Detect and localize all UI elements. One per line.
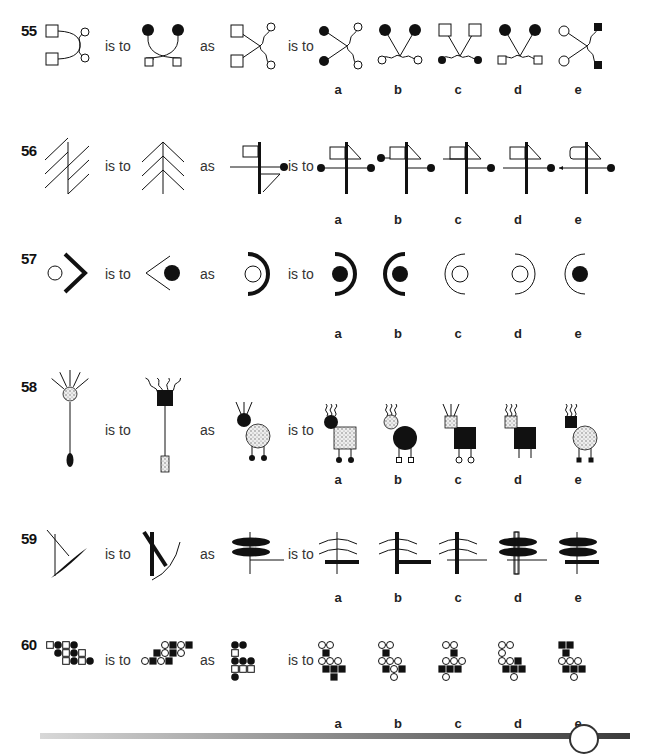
is-to-text: is to <box>105 38 131 54</box>
option-d-figure[interactable] <box>497 530 553 576</box>
is-to-text: is to <box>288 38 314 54</box>
option-b-label[interactable]: b <box>388 472 408 487</box>
option-a-label[interactable]: a <box>328 716 348 731</box>
option-a-figure[interactable] <box>317 400 367 468</box>
is-to-text: is to <box>105 266 131 282</box>
option-c-figure[interactable] <box>437 250 483 298</box>
figure-A <box>45 142 91 194</box>
option-c-figure[interactable] <box>437 142 497 194</box>
option-c-label[interactable]: c <box>448 472 468 487</box>
option-b-figure[interactable] <box>377 530 433 576</box>
figure-B <box>140 374 190 474</box>
option-a-label[interactable]: a <box>328 472 348 487</box>
is-to-text: is to <box>105 422 131 438</box>
option-b-figure[interactable] <box>377 640 410 684</box>
figure-C <box>230 398 280 466</box>
option-d-figure[interactable] <box>497 400 547 468</box>
option-e-label[interactable]: e <box>568 472 588 487</box>
option-d-figure[interactable] <box>497 640 530 684</box>
option-c-label[interactable]: c <box>448 590 468 605</box>
option-b-figure[interactable] <box>377 142 437 194</box>
footer-bar <box>40 733 630 739</box>
option-c-label[interactable]: c <box>448 716 468 731</box>
question-number: 59 <box>21 530 37 547</box>
option-b-label[interactable]: b <box>388 212 408 227</box>
option-d-figure[interactable] <box>497 22 543 70</box>
option-b-figure[interactable] <box>377 400 427 468</box>
figure-C <box>230 640 259 684</box>
option-c-label[interactable]: c <box>448 326 468 341</box>
figure-C <box>230 142 290 194</box>
option-d-label[interactable]: d <box>508 82 528 97</box>
is-to-text: is to <box>105 546 131 562</box>
as-text: as <box>200 652 215 668</box>
page-tab-circle <box>569 724 599 754</box>
option-e-label[interactable]: e <box>568 326 588 341</box>
option-e-figure[interactable] <box>557 142 617 194</box>
as-text: as <box>200 38 215 54</box>
option-e-figure[interactable] <box>557 250 603 298</box>
option-b-label[interactable]: b <box>388 326 408 341</box>
is-to-text: is to <box>288 266 314 282</box>
is-to-text: is to <box>288 422 314 438</box>
option-d-label[interactable]: d <box>508 212 528 227</box>
option-a-figure[interactable] <box>317 22 363 70</box>
as-text: as <box>200 422 215 438</box>
figure-A <box>45 22 91 68</box>
is-to-text: is to <box>105 158 131 174</box>
option-c-figure[interactable] <box>437 530 493 576</box>
figure-A <box>45 640 98 668</box>
figure-A <box>45 530 91 580</box>
figure-A <box>45 374 95 470</box>
option-a-figure[interactable] <box>317 142 377 194</box>
option-e-figure[interactable] <box>557 530 613 576</box>
option-d-label[interactable]: d <box>508 326 528 341</box>
option-a-label[interactable]: a <box>328 212 348 227</box>
option-c-figure[interactable] <box>437 22 483 70</box>
option-a-figure[interactable] <box>317 640 350 684</box>
option-a-figure[interactable] <box>317 250 363 298</box>
is-to-text: is to <box>288 158 314 174</box>
as-text: as <box>200 158 215 174</box>
option-c-label[interactable]: c <box>448 212 468 227</box>
figure-C <box>230 22 276 70</box>
option-b-figure[interactable] <box>377 22 423 70</box>
figure-B <box>140 142 186 194</box>
option-d-label[interactable]: d <box>508 472 528 487</box>
option-e-label[interactable]: e <box>568 212 588 227</box>
option-d-figure[interactable] <box>497 250 543 298</box>
option-a-label[interactable]: a <box>328 82 348 97</box>
figure-B <box>140 530 186 580</box>
figure-C <box>230 250 276 298</box>
question-number: 58 <box>21 378 37 395</box>
option-b-label[interactable]: b <box>388 590 408 605</box>
option-e-label[interactable]: e <box>568 82 588 97</box>
option-c-figure[interactable] <box>437 400 487 468</box>
option-b-figure[interactable] <box>377 250 423 298</box>
as-text: as <box>200 546 215 562</box>
option-a-figure[interactable] <box>317 530 373 576</box>
question-number: 56 <box>21 142 37 159</box>
is-to-text: is to <box>288 652 314 668</box>
option-b-label[interactable]: b <box>388 82 408 97</box>
option-b-label[interactable]: b <box>388 716 408 731</box>
is-to-text: is to <box>288 546 314 562</box>
option-a-label[interactable]: a <box>328 326 348 341</box>
figure-C <box>230 530 286 576</box>
option-e-figure[interactable] <box>557 640 590 684</box>
figure-A <box>45 250 91 296</box>
question-number: 60 <box>21 636 37 653</box>
figure-B <box>140 250 186 296</box>
option-c-label[interactable]: c <box>448 82 468 97</box>
option-e-figure[interactable] <box>557 22 603 70</box>
option-d-label[interactable]: d <box>508 716 528 731</box>
figure-B <box>140 640 197 668</box>
as-text: as <box>200 266 215 282</box>
option-e-label[interactable]: e <box>568 590 588 605</box>
option-c-figure[interactable] <box>437 640 470 684</box>
option-e-figure[interactable] <box>557 400 607 468</box>
option-a-label[interactable]: a <box>328 590 348 605</box>
option-d-label[interactable]: d <box>508 590 528 605</box>
option-d-figure[interactable] <box>497 142 557 194</box>
